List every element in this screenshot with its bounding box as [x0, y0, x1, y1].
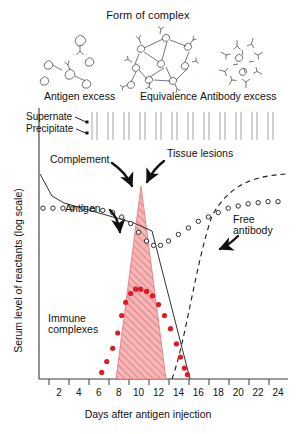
immune-complex-marker [168, 326, 173, 331]
complement-marker [216, 210, 220, 214]
immune-complex-marker [123, 300, 128, 305]
x-tick-label: 4 [76, 387, 82, 398]
immune-complex-marker [150, 293, 155, 298]
tissue-lesions-arrow [147, 161, 164, 182]
free-antibody-label: Free antibody [233, 214, 273, 236]
x-tick-label: 14 [173, 387, 185, 398]
free-antibody-curve [172, 174, 286, 379]
immune-complex-marker [128, 291, 133, 296]
complement-marker [136, 230, 140, 234]
complement-marker [206, 215, 210, 219]
x-tick-label: 6 [96, 387, 102, 398]
x-tick-label: 16 [193, 387, 205, 398]
x-tick-label: 8 [116, 387, 122, 398]
x-tick-label: 2 [56, 387, 62, 398]
x-tick-label: 10 [133, 387, 145, 398]
immune-complex-marker [162, 313, 167, 318]
complement-marker [128, 221, 132, 225]
immune-complex-marker [99, 370, 104, 375]
complement-marker [246, 202, 250, 206]
immune-complex-marker [119, 313, 124, 318]
immune-complex-marker [115, 330, 120, 335]
precipitate-peak-area [116, 186, 166, 379]
antibody-excess-label: Antibody excess [200, 91, 276, 102]
immune-complex-marker [144, 289, 149, 294]
x-tick-label: 24 [272, 387, 284, 398]
figure-root: 24681012141618202224 Form of complex Ant… [0, 0, 296, 434]
panel-title: Form of complex [0, 10, 296, 22]
x-tick-label: 22 [253, 387, 265, 398]
supernate-label: Supernate [26, 112, 72, 123]
complement-marker [266, 199, 270, 203]
immune-complex-marker [174, 341, 179, 346]
immune-complex-marker [178, 355, 183, 360]
plot-axes [39, 108, 288, 379]
x-tick-label: 20 [233, 387, 245, 398]
complement-label: Complement [50, 154, 110, 165]
complement-marker [186, 226, 190, 230]
complement-marker [166, 239, 170, 243]
complement-marker [158, 243, 162, 247]
x-tick-label: 12 [153, 387, 165, 398]
antigen-excess-diagram [40, 35, 94, 88]
immune-complex-marker [156, 302, 161, 307]
immune-complexes-label: Immune complexes [48, 313, 98, 335]
x-axis-title: Days after antigen injection [0, 409, 296, 420]
free-antibody-label-line2: antibody [233, 225, 273, 236]
complement-arrow [112, 163, 132, 186]
complement-marker [144, 239, 148, 243]
tube-row [75, 112, 273, 140]
complement-marker [51, 206, 55, 210]
complement-marker [119, 215, 123, 219]
immune-complex-marker [138, 287, 143, 292]
tissue-lesions-label: Tissue lesions [167, 148, 233, 159]
complement-marker [256, 201, 260, 205]
immune-complex-marker [185, 372, 190, 377]
complement-marker [226, 206, 230, 210]
immune-complexes-label-line2: complexes [48, 324, 98, 335]
complement-marker [176, 232, 180, 236]
complement-marker [196, 219, 200, 223]
y-axis-title: Serum level of reactants (log scale) [13, 166, 24, 376]
immune-complex-marker [104, 359, 109, 364]
precipitate-label: Precipitate [26, 124, 73, 135]
free-antibody-arrow [220, 236, 238, 249]
complement-marker [101, 208, 105, 212]
complement-marker [276, 199, 280, 203]
antigen-excess-label: Antigen excess [44, 91, 115, 102]
x-axis-tick-labels: 24681012141618202224 [56, 387, 284, 398]
antigen-label: Antigen [65, 203, 101, 214]
immune-complex-marker [133, 287, 138, 292]
complement-marker [236, 204, 240, 208]
equivalence-label: Equivalence [140, 91, 197, 102]
complement-marker [151, 243, 155, 247]
immune-complex-marker [110, 346, 115, 351]
immune-complex-marker [182, 365, 187, 370]
complement-marker [41, 206, 45, 210]
equivalence-diagram [120, 27, 199, 94]
x-axis-ticks [49, 379, 269, 385]
antibody-excess-diagram [219, 38, 263, 88]
x-tick-label: 18 [213, 387, 225, 398]
